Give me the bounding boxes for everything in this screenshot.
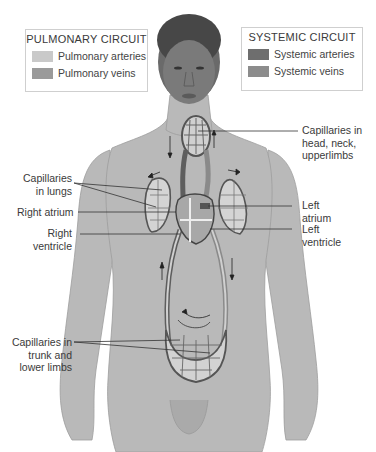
legend-label: Pulmonary veins: [58, 67, 136, 79]
legend-title: PULMONARY CIRCUIT: [26, 33, 147, 45]
swatch-systemic-arteries: [248, 49, 269, 60]
legend-title: SYSTEMIC CIRCUIT: [242, 31, 362, 43]
legend-pulmonary: PULMONARY CIRCUIT Pulmonary arteries Pul…: [25, 29, 148, 92]
legend-item-pulmonary-veins: Pulmonary veins: [32, 67, 147, 79]
legend-systemic: SYSTEMIC CIRCUIT Systemic arteries Syste…: [241, 27, 363, 91]
swatch-pulmonary-arteries: [32, 51, 53, 62]
label-right-atrium: Right atrium: [17, 206, 74, 219]
label-left-atrium: Left atrium: [302, 199, 331, 224]
legend-item-systemic-veins: Systemic veins: [248, 65, 362, 77]
legend-item-pulmonary-arteries: Pulmonary arteries: [32, 50, 147, 62]
label-right-ventricle: Right ventricle: [20, 227, 72, 252]
label-capillaries-head: Capillaries in head, neck, upperlimbs: [302, 124, 362, 162]
legend-item-systemic-arteries: Systemic arteries: [248, 48, 362, 60]
label-capillaries-trunk: Capillaries in trunk and lower limbs: [0, 336, 72, 374]
swatch-pulmonary-veins: [32, 68, 53, 79]
swatch-systemic-veins: [248, 66, 269, 77]
head: [157, 14, 221, 104]
legend-label: Systemic veins: [274, 65, 344, 77]
label-capillaries-lungs: Capillaries in lungs: [20, 172, 72, 197]
capillaries-head-neck: [182, 116, 210, 156]
legend-label: Systemic arteries: [274, 48, 355, 60]
legend-label: Pulmonary arteries: [58, 50, 146, 62]
label-left-ventricle: Left ventricle: [302, 223, 341, 248]
